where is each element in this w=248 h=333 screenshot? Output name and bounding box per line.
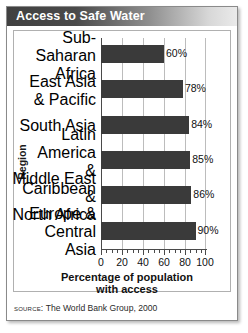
category-label-column: Sub-Saharan Africa East Asia & Pacific S… (14, 38, 98, 250)
bar-row: 60% (101, 38, 206, 73)
category-label-line: East Asia (29, 73, 96, 91)
x-tick-minor (133, 250, 134, 253)
category-label-line: Middle East & (12, 170, 96, 206)
x-tick-major (122, 250, 123, 255)
plot-area: 60% 78% 84% 85% 86% 90% (101, 38, 206, 250)
x-axis-title: Percentage of population with access (28, 271, 226, 295)
bar-row: 85% (101, 144, 206, 179)
category-label-0: Sub-Saharan Africa (12, 38, 96, 73)
bar-value-label: 78% (183, 82, 206, 94)
x-tick-label: 40 (137, 256, 149, 268)
bar-row: 86% (101, 179, 206, 214)
source-note: Source: The World Bank Group, 2000 (14, 303, 157, 313)
bar-row: 84% (101, 109, 206, 144)
page-title: Access to Safe Water (16, 9, 145, 23)
bar-value-label: 60% (164, 47, 187, 59)
x-tick-minor (201, 250, 202, 253)
x-tick-minor (196, 250, 197, 253)
x-tick-minor (112, 250, 113, 253)
x-tick-major (101, 250, 102, 255)
category-label-line: Europe & (29, 205, 96, 223)
x-axis-title-line2: with access (28, 283, 226, 295)
x-tick-minor (159, 250, 160, 253)
bar (101, 222, 196, 240)
chart-title-bar: Access to Safe Water (7, 7, 237, 26)
source-prefix: Source: (14, 303, 43, 313)
x-tick-minor (190, 250, 191, 253)
x-tick-minor (180, 250, 181, 253)
x-tick-minor (106, 250, 107, 253)
x-tick-major (185, 250, 186, 255)
bar-value-label: 84% (189, 118, 212, 130)
bar (101, 151, 190, 169)
x-tick-label: 100 (196, 256, 214, 268)
x-tick-minor (154, 250, 155, 253)
x-tick-major (143, 250, 144, 255)
bar (101, 80, 183, 98)
x-tick-minor (117, 250, 118, 253)
x-tick-major (205, 250, 206, 255)
x-tick-label: 80 (179, 256, 191, 268)
category-label-line: Latin America (12, 126, 96, 162)
bar-row: 90% (101, 215, 206, 250)
x-tick-minor (148, 250, 149, 253)
bar-value-label: 85% (190, 153, 213, 165)
x-tick-minor (175, 250, 176, 253)
category-label-5: Europe & Central Asia (12, 215, 96, 250)
chart-figure: Access to Safe Water Region Sub-Saharan … (0, 0, 248, 333)
category-label-1: East Asia & Pacific (12, 73, 96, 108)
x-axis-title-line1: Percentage of population (28, 271, 226, 283)
bar (101, 186, 191, 204)
bar (101, 45, 164, 63)
source-text: The World Bank Group, 2000 (46, 303, 158, 313)
category-label-line: & Pacific (34, 91, 96, 109)
bar-row: 78% (101, 73, 206, 108)
bar (101, 116, 189, 134)
x-tick-label: 60 (158, 256, 170, 268)
category-label-line: Sub-Saharan (12, 29, 96, 65)
x-tick-minor (138, 250, 139, 253)
x-tick-label: 20 (116, 256, 128, 268)
x-tick-major (164, 250, 165, 255)
x-tick-label: 0 (98, 256, 104, 268)
category-label-line: Central Asia (12, 223, 96, 259)
x-tick-minor (127, 250, 128, 253)
bar-value-label: 86% (191, 188, 214, 200)
x-tick-minor (169, 250, 170, 253)
bar-value-label: 90% (196, 224, 219, 236)
x-axis: 0 20 40 60 80 100 (101, 250, 207, 272)
plot-card: Region Sub-Saharan Africa East Asia & Pa… (13, 30, 231, 292)
